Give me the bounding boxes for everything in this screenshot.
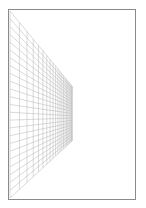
grid-lines [10, 11, 72, 198]
perspective-grid [0, 0, 146, 208]
